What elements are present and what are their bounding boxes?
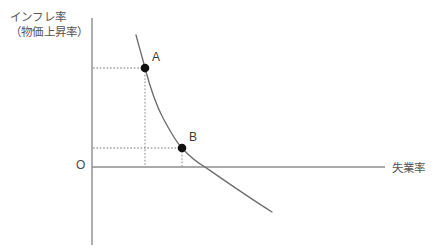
point-a-marker: [141, 64, 150, 73]
point-b-marker: [178, 144, 187, 153]
x-axis-label: 失業率: [392, 161, 426, 176]
y-axis-label: インフレ率 （物価上昇率）: [10, 10, 88, 40]
y-axis-label-line1: インフレ率: [10, 10, 88, 25]
origin-label: O: [76, 158, 85, 172]
y-axis-label-line2: （物価上昇率）: [10, 25, 88, 40]
point-b-label: B: [189, 130, 197, 144]
point-a-label: A: [152, 50, 160, 64]
